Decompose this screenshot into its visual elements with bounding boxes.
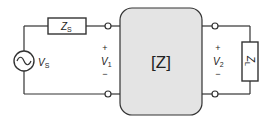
port2-voltage-label: V2 bbox=[213, 56, 224, 68]
network-label: [Z] bbox=[151, 53, 171, 72]
port2-minus: − bbox=[215, 69, 220, 79]
port1-plus: + bbox=[102, 43, 107, 53]
circuit-diagram: VS ZS [Z] + V1 − + V2 − ZL bbox=[0, 0, 272, 119]
port1-bottom-terminal bbox=[105, 91, 111, 97]
port2-plus: + bbox=[215, 43, 220, 53]
port2-bottom-terminal bbox=[212, 91, 218, 97]
port2-top-terminal bbox=[212, 23, 218, 29]
ac-source-icon bbox=[14, 51, 34, 71]
port1-voltage-label: V1 bbox=[101, 56, 112, 68]
port1-minus: − bbox=[102, 69, 107, 79]
source-label: VS bbox=[38, 57, 50, 69]
port1-top-terminal bbox=[105, 23, 111, 29]
